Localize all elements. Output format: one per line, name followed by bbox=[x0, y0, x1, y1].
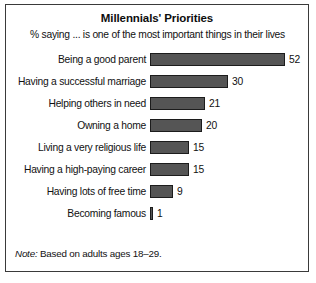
chart-title: Millennials' Priorities bbox=[6, 5, 308, 24]
bar bbox=[150, 119, 202, 132]
bar-track: 9 bbox=[150, 180, 308, 202]
bar-track: 30 bbox=[150, 70, 308, 92]
bar-category-label: Owning a home bbox=[6, 120, 150, 131]
bar-track: 1 bbox=[150, 202, 308, 224]
bar-value-label: 30 bbox=[228, 76, 243, 87]
bar bbox=[150, 185, 173, 198]
bar-track: 20 bbox=[150, 114, 308, 136]
note-label: Note: bbox=[15, 248, 37, 259]
bar-row: Having a successful marriage30 bbox=[6, 70, 308, 92]
bar-value-label: 52 bbox=[285, 54, 300, 65]
bar-chart-plot: Being a good parent52Having a successful… bbox=[6, 48, 308, 224]
chart-subtitle: % saying ... is one of the most importan… bbox=[6, 24, 308, 40]
bar-track: 52 bbox=[150, 48, 308, 70]
bar bbox=[150, 97, 205, 110]
chart-note: Note: Based on adults ages 18–29. bbox=[15, 248, 161, 259]
note-text: Based on adults ages 18–29. bbox=[37, 248, 161, 259]
bar-value-label: 1 bbox=[153, 208, 163, 219]
bar-row: Living a very religious life15 bbox=[6, 136, 308, 158]
bar-value-label: 9 bbox=[173, 186, 183, 197]
bar-row: Being a good parent52 bbox=[6, 48, 308, 70]
bar-track: 15 bbox=[150, 136, 308, 158]
bar-category-label: Having a successful marriage bbox=[6, 76, 150, 87]
bar-row: Having a high-paying career15 bbox=[6, 158, 308, 180]
bar bbox=[150, 75, 228, 88]
bar-category-label: Having lots of free time bbox=[6, 186, 150, 197]
bar-row: Owning a home20 bbox=[6, 114, 308, 136]
bar-value-label: 20 bbox=[202, 120, 217, 131]
bar-value-label: 15 bbox=[189, 142, 204, 153]
bar-category-label: Helping others in need bbox=[6, 98, 150, 109]
bar-row: Helping others in need21 bbox=[6, 92, 308, 114]
bar-track: 15 bbox=[150, 158, 308, 180]
bar-row: Having lots of free time9 bbox=[6, 180, 308, 202]
bar-value-label: 15 bbox=[189, 164, 204, 175]
chart-figure: Millennials' Priorities % saying ... is … bbox=[5, 4, 309, 272]
bar-row: Becoming famous1 bbox=[6, 202, 308, 224]
bar bbox=[150, 163, 189, 176]
bar bbox=[150, 53, 285, 66]
bar-category-label: Becoming famous bbox=[6, 208, 150, 219]
bar bbox=[150, 141, 189, 154]
bar-track: 21 bbox=[150, 92, 308, 114]
bar-category-label: Having a high-paying career bbox=[6, 164, 150, 175]
bar-value-label: 21 bbox=[205, 98, 220, 109]
bar-category-label: Living a very religious life bbox=[6, 142, 150, 153]
bar-category-label: Being a good parent bbox=[6, 54, 150, 65]
